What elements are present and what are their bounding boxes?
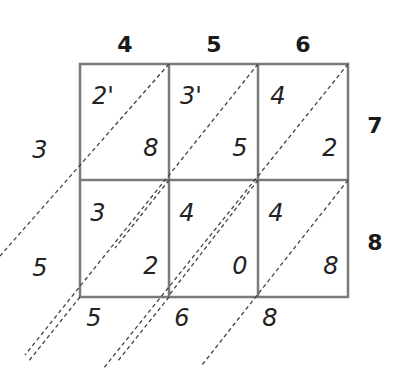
top-digit: 6 <box>295 32 310 57</box>
cell-ones: 8 <box>143 134 158 162</box>
cell-ones: 0 <box>232 252 247 280</box>
right-digit: 7 <box>367 113 382 138</box>
cell-ones: 2 <box>322 134 337 162</box>
result-digit-left: 3 <box>32 136 47 164</box>
result-digit-bottom: 6 <box>174 304 189 332</box>
top-digit: 4 <box>117 32 132 57</box>
right-digit: 8 <box>367 230 382 255</box>
cell-tens: 3 <box>90 199 105 227</box>
result-digit-bottom: 5 <box>86 304 101 332</box>
top-digit: 5 <box>206 32 221 57</box>
lattice-multiplication-diagram: 4 5 6 7 8 2' 8 3' 5 4 2 3 2 4 0 4 8 3 5 … <box>0 0 405 377</box>
cell-tens: 2' <box>92 82 114 110</box>
cell-ones: 5 <box>232 134 247 162</box>
cell-tens: 4 <box>268 199 283 227</box>
cell-tens: 3' <box>180 82 202 110</box>
cell-ones: 8 <box>323 252 338 280</box>
result-digit-bottom: 8 <box>262 304 277 332</box>
result-digit-left: 5 <box>32 254 47 282</box>
cell-tens: 4 <box>270 82 285 110</box>
lattice-grid <box>0 0 405 377</box>
cell-ones: 2 <box>143 252 158 280</box>
cell-tens: 4 <box>179 199 194 227</box>
